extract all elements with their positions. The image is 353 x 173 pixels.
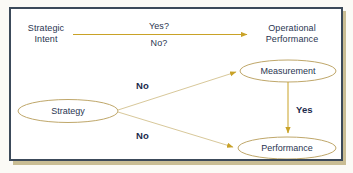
diagram-canvas: Strategic Intent Operational Performance… [0, 0, 353, 173]
strategic-intent-line-1: Strategic [19, 23, 73, 34]
node-performance-label: Performance [239, 143, 335, 153]
edge-label-no-upper: No [136, 81, 149, 92]
edge-label-no-lower: No [136, 131, 149, 142]
node-measurement-label: Measurement [240, 66, 336, 76]
diagram-frame: Strategic Intent Operational Performance… [9, 7, 343, 161]
node-operational-performance: Operational Performance [254, 23, 330, 44]
strategic-intent-line-2: Intent [19, 34, 73, 45]
node-strategy-label: Strategy [20, 106, 116, 116]
edge-label-yes-vertical: Yes [296, 105, 313, 116]
operational-performance-line-2: Performance [254, 34, 330, 45]
node-strategic-intent: Strategic Intent [19, 23, 73, 44]
edge-label-yes-question: Yes? [137, 21, 181, 32]
operational-performance-line-1: Operational [254, 23, 330, 34]
edge-label-no-question: No? [137, 38, 181, 49]
